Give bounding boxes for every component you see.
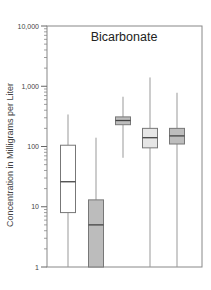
box-5 — [170, 93, 185, 267]
box-1 — [61, 114, 76, 267]
tick-label: 100 — [27, 143, 39, 150]
tick-label: 10,000 — [18, 23, 40, 30]
y-axis-ticks: 1101001,00010,000 — [18, 23, 47, 271]
box-3 — [116, 97, 131, 158]
box-2 — [89, 138, 104, 267]
tick-label: 1,000 — [21, 83, 39, 90]
y-axis-label: Concentration in Milligrams per Liter — [5, 83, 15, 227]
tick-label: 1 — [35, 264, 39, 271]
iqr-box — [61, 145, 76, 212]
box-series — [61, 77, 185, 267]
chart-title: Bicarbonate — [91, 30, 158, 44]
tick-label: 10 — [31, 203, 39, 210]
iqr-box — [89, 200, 104, 267]
box-4 — [143, 77, 158, 267]
